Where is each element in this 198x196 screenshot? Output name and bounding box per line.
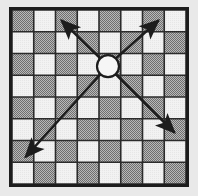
board-square[interactable] xyxy=(12,10,34,32)
board-square[interactable] xyxy=(164,162,186,184)
board-square[interactable] xyxy=(143,119,165,141)
board-square[interactable] xyxy=(77,54,99,76)
board-square[interactable] xyxy=(77,10,99,32)
board-square[interactable] xyxy=(12,97,34,119)
bishop-marker[interactable] xyxy=(97,55,119,77)
board-square[interactable] xyxy=(77,97,99,119)
board-square[interactable] xyxy=(12,162,34,184)
figure-root: Bishop diagonal movement on a chessboard xyxy=(0,0,198,196)
board-square[interactable] xyxy=(164,54,186,76)
chessboard-diagram xyxy=(0,0,198,196)
board-square[interactable] xyxy=(143,75,165,97)
board-square[interactable] xyxy=(164,32,186,54)
board-square[interactable] xyxy=(34,97,56,119)
board-square[interactable] xyxy=(77,32,99,54)
board-square[interactable] xyxy=(164,141,186,163)
board-square[interactable] xyxy=(164,10,186,32)
board-square[interactable] xyxy=(34,75,56,97)
board-square[interactable] xyxy=(77,162,99,184)
board-square[interactable] xyxy=(164,75,186,97)
board-square[interactable] xyxy=(56,141,78,163)
board-square[interactable] xyxy=(121,141,143,163)
board-square[interactable] xyxy=(56,97,78,119)
board-square[interactable] xyxy=(121,162,143,184)
board-square[interactable] xyxy=(99,162,121,184)
board-square[interactable] xyxy=(34,54,56,76)
board-square[interactable] xyxy=(143,97,165,119)
board-square[interactable] xyxy=(12,119,34,141)
board-square[interactable] xyxy=(77,141,99,163)
board-square[interactable] xyxy=(34,32,56,54)
board-square[interactable] xyxy=(121,10,143,32)
board-square[interactable] xyxy=(12,75,34,97)
board-square[interactable] xyxy=(143,141,165,163)
board-square[interactable] xyxy=(56,32,78,54)
board-square[interactable] xyxy=(99,75,121,97)
board-square[interactable] xyxy=(34,162,56,184)
board-square[interactable] xyxy=(12,32,34,54)
board-square[interactable] xyxy=(99,141,121,163)
board-square[interactable] xyxy=(77,119,99,141)
board-square[interactable] xyxy=(99,32,121,54)
board-square[interactable] xyxy=(12,54,34,76)
board-square[interactable] xyxy=(99,97,121,119)
board-square[interactable] xyxy=(121,54,143,76)
board-square[interactable] xyxy=(56,162,78,184)
board-square[interactable] xyxy=(143,10,165,32)
board-square[interactable] xyxy=(143,32,165,54)
board-square[interactable] xyxy=(164,97,186,119)
board-square[interactable] xyxy=(56,75,78,97)
board-square[interactable] xyxy=(56,10,78,32)
board-square[interactable] xyxy=(56,54,78,76)
board-square[interactable] xyxy=(143,162,165,184)
board-square[interactable] xyxy=(143,54,165,76)
board-square[interactable] xyxy=(99,10,121,32)
board-square[interactable] xyxy=(164,119,186,141)
board-square[interactable] xyxy=(34,10,56,32)
board-square[interactable] xyxy=(121,119,143,141)
board-square[interactable] xyxy=(121,75,143,97)
board-square[interactable] xyxy=(121,97,143,119)
board-square[interactable] xyxy=(99,119,121,141)
